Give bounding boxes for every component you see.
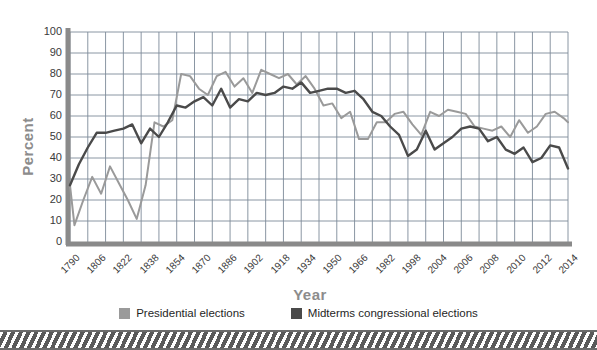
x-tick-label: 1950: [312, 252, 344, 284]
x-tick-label: 2004: [417, 252, 449, 284]
legend-label: Midterms congressional elections: [308, 307, 478, 319]
legend-swatch-icon: [119, 308, 130, 319]
chart-legend: Presidential electionsMidterms congressi…: [0, 307, 597, 319]
x-tick-label: 2014: [548, 252, 580, 284]
x-axis-title: Year: [0, 286, 597, 303]
x-tick-label: 1790: [50, 252, 82, 284]
x-tick-label: 1918: [260, 252, 292, 284]
legend-item: Midterms congressional elections: [291, 307, 478, 319]
legend-item: Presidential elections: [119, 307, 245, 319]
x-tick-label: 2012: [522, 252, 554, 284]
x-tick-label: 1822: [102, 252, 134, 284]
decorative-hatch-band: [0, 330, 597, 350]
x-tick-label: 2006: [443, 252, 475, 284]
legend-swatch-icon: [291, 308, 302, 319]
x-tick-label: 1902: [233, 252, 265, 284]
x-tick-label: 1966: [338, 252, 370, 284]
x-tick-label: 1934: [286, 252, 318, 284]
x-tick-label: 2008: [469, 252, 501, 284]
x-tick-label: 1838: [129, 252, 161, 284]
legend-label: Presidential elections: [136, 307, 245, 319]
x-tick-label: 2010: [496, 252, 528, 284]
x-tick-label: 1998: [391, 252, 423, 284]
x-tick-label: 1982: [364, 252, 396, 284]
x-tick-label: 1854: [155, 252, 187, 284]
x-tick-label: 1806: [76, 252, 108, 284]
x-tick-label: 1870: [181, 252, 213, 284]
x-tick-label: 1886: [207, 252, 239, 284]
